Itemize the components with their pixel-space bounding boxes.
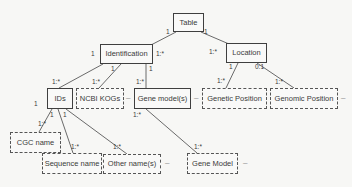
node-ncbi-kogs: NCBI KOGs — [76, 88, 124, 109]
mult-ids-othernames-parent: 1 — [63, 112, 67, 119]
ellipsis-after-ncbi-kogs: – — [126, 94, 130, 102]
ellipsis-after-genomic-position: – — [341, 94, 345, 102]
mult-ids-othernames-child: 1:* — [113, 144, 121, 151]
ellipsis-after-gene-models: – — [194, 94, 198, 102]
node-gene-models: Gene model(s) — [134, 88, 191, 109]
node-genetic-position: Genetic Position — [202, 88, 267, 109]
edge-table-identification — [151, 32, 176, 45]
mult-table-identification-parent: 1 — [166, 29, 170, 36]
ellipsis-after-gene-model: – — [243, 159, 247, 167]
schema-diagram: Table Identification Location IDs NCBI K… — [0, 0, 352, 187]
mult-identification-ncbikogs-parent: 1 — [111, 66, 115, 73]
mult-ids-cgcname-child: 1:* — [38, 121, 46, 128]
mult-identification-ids-parent: 1 — [91, 51, 95, 58]
mult-location-genomicposition-parent: 0:1 — [255, 64, 264, 71]
node-table: Table — [173, 13, 204, 32]
mult-location-geneticposition-parent: 1 — [229, 64, 233, 71]
mult-location-geneticposition-child: 1:* — [217, 78, 225, 85]
mult-genemodels-genemodel-child: 1:* — [194, 144, 202, 151]
mult-identification-ncbikogs-child: 1:* — [92, 79, 100, 86]
mult-ids-cgcname-parent: 1 — [34, 101, 38, 108]
mult-table-identification-child: 1:* — [156, 51, 164, 58]
node-identification: Identification — [100, 44, 153, 64]
mult-identification-genemodels-parent: 1 — [149, 66, 153, 73]
edge-genemodels-genemodel — [146, 109, 197, 153]
node-cgc-name: CGC name — [10, 132, 61, 153]
mult-ids-sequencename-child: 1:* — [71, 144, 79, 151]
node-other-names: Other name(s) — [103, 154, 161, 174]
mult-ids-sequencename-parent: 1 — [50, 112, 54, 119]
ellipsis-after-other-names: – — [165, 159, 169, 167]
mult-identification-genemodels-child: 1:* — [136, 79, 144, 86]
node-location: Location — [226, 43, 267, 63]
mult-genemodels-genemodel-parent: 1:* — [133, 112, 141, 119]
mult-location-genomicposition-child: 1:* — [275, 79, 283, 86]
node-sequence-name: Sequence name — [42, 153, 102, 174]
node-gene-model: Gene Model — [187, 153, 238, 174]
mult-identification-ids-child: 1:* — [52, 79, 60, 86]
node-ids: IDs — [47, 88, 73, 109]
node-genomic-position: Genomic Position — [270, 88, 338, 109]
edge-identification-ncbikogs — [99, 64, 121, 88]
mult-table-location-child: 1:* — [209, 49, 217, 56]
mult-table-location-parent: 1 — [204, 29, 208, 36]
